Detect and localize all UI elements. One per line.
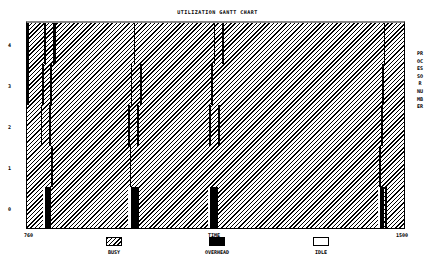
- gantt-segment-overhead: [209, 105, 211, 146]
- y-tick-label: 4: [8, 42, 11, 48]
- gantt-segment-overhead: [41, 105, 43, 146]
- gantt-segment-overhead: [384, 23, 386, 64]
- chart-title: UTILIZATION GANTT CHART: [0, 9, 435, 15]
- legend-busy: BUSY: [94, 237, 134, 255]
- legend-idle: IDLE: [301, 237, 341, 255]
- gantt-segment-overhead: [380, 187, 384, 228]
- gantt-segment-overhead: [134, 23, 136, 64]
- gantt-segment-overhead: [381, 105, 383, 146]
- gantt-plot-area: [26, 21, 405, 229]
- gantt-segment-overhead: [50, 64, 52, 105]
- idle-swatch: [313, 237, 329, 246]
- gantt-segment-overhead: [42, 64, 44, 105]
- gantt-segment-overhead: [53, 23, 56, 64]
- legend-label: IDLE: [301, 249, 341, 255]
- gantt-segment-overhead: [379, 146, 381, 187]
- y-tick-label: 0: [8, 206, 11, 212]
- legend-overhead: OVERHEAD: [197, 237, 237, 255]
- gantt-segment-overhead: [27, 23, 29, 64]
- gantt-segment-overhead: [130, 146, 132, 187]
- gantt-segment-overhead: [137, 105, 139, 146]
- gantt-segment-overhead: [382, 64, 384, 105]
- y-tick-label: 2: [8, 124, 11, 130]
- gantt-segment-overhead: [49, 105, 51, 146]
- overhead-swatch: [209, 237, 225, 246]
- gantt-segment-overhead: [51, 146, 53, 187]
- gantt-segment-overhead: [128, 105, 130, 146]
- gantt-segment-overhead: [222, 23, 224, 64]
- busy-swatch: [106, 237, 122, 246]
- gantt-segment-overhead: [211, 64, 213, 105]
- gantt-segment-overhead: [218, 105, 220, 146]
- gantt-segment-overhead: [385, 187, 387, 228]
- legend-label: BUSY: [94, 249, 134, 255]
- x-start-label: 760: [24, 232, 33, 238]
- gantt-segment-overhead: [131, 64, 133, 105]
- gantt-segment-overhead: [214, 23, 216, 64]
- gantt-segment-overhead: [44, 23, 46, 64]
- gantt-segment-overhead: [45, 187, 51, 228]
- gantt-segment-overhead: [27, 64, 29, 105]
- y-axis-title: PROCESSOR NUMBER: [416, 50, 424, 111]
- y-tick-label: 1: [8, 165, 11, 171]
- gantt-segment-overhead: [140, 64, 142, 105]
- gantt-segment-overhead: [210, 187, 218, 228]
- gantt-segment-overhead: [131, 187, 138, 228]
- y-tick-label: 3: [8, 83, 11, 89]
- x-end-label: 1500: [396, 232, 408, 238]
- legend-label: OVERHEAD: [197, 249, 237, 255]
